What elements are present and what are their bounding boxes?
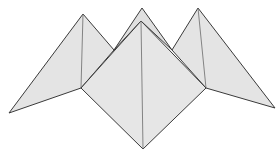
origami-diagram	[0, 0, 280, 162]
